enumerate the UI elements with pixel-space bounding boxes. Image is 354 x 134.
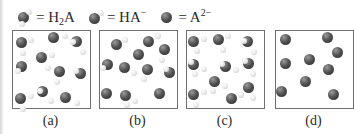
ha-anion-icon — [224, 91, 240, 107]
h2a-molecule-icon — [69, 34, 85, 50]
h2a-molecule-icon — [211, 32, 227, 48]
one-hydrogen-molecule-icon — [85, 7, 105, 27]
h2a-molecule-icon — [241, 56, 257, 72]
ha-anion-icon — [140, 62, 156, 78]
h2a-molecule-icon — [13, 91, 29, 107]
panel-a — [12, 30, 91, 109]
panel-label: (a) — [12, 113, 89, 129]
ha-anion-icon — [100, 57, 116, 73]
legend-item-h2a: = H2A — [14, 7, 75, 27]
two-hydrogen-molecule-icon — [14, 7, 34, 27]
a2-anion-icon — [330, 45, 346, 61]
a2-anion-icon — [274, 84, 290, 100]
panel-label: (d) — [275, 113, 352, 129]
a2-anion-icon — [298, 74, 314, 90]
ha-anion-icon — [109, 37, 125, 53]
h2a-molecule-icon — [14, 35, 30, 51]
a2-anion-icon — [99, 86, 115, 102]
h2a-molecule-icon — [35, 84, 51, 100]
h2a-molecule-icon — [207, 74, 223, 90]
a2-anion-icon — [278, 56, 294, 72]
ha-anion-icon — [52, 64, 68, 80]
legend-item-ha: = HA− — [85, 7, 147, 27]
ha-anion-icon — [162, 65, 178, 81]
ha-anion-icon — [46, 30, 62, 46]
a2-anion-icon — [302, 52, 318, 68]
a2-anion-icon — [152, 86, 168, 102]
h2a-molecule-icon — [118, 88, 134, 104]
ha-anion-icon — [14, 59, 30, 75]
h2a-molecule-icon — [218, 59, 234, 75]
a2-anion-icon — [326, 87, 342, 103]
panel-d — [275, 30, 354, 109]
a2-anion-icon — [321, 62, 337, 78]
h2a-molecule-icon — [186, 34, 202, 50]
ha-anion-icon — [73, 66, 89, 82]
panel-label: (c) — [186, 113, 263, 129]
h2a-molecule-icon — [186, 87, 202, 103]
legend-label-h2a: = H2A — [36, 9, 75, 26]
legend-label-ha: = HA− — [107, 9, 147, 26]
panel-label: (b) — [99, 113, 176, 129]
ha-anion-icon — [58, 90, 74, 106]
species-legend: = H2A = HA− = A2− — [14, 7, 221, 27]
ha-anion-icon — [157, 42, 173, 58]
a2-anion-icon — [320, 30, 336, 46]
h2a-molecule-icon — [186, 57, 202, 73]
h2a-molecule-icon — [34, 50, 50, 66]
legend-label-a2: = A2− — [178, 9, 211, 26]
legend-item-a2: = A2− — [156, 7, 211, 27]
panel-c — [186, 30, 265, 109]
ha-anion-icon — [117, 60, 133, 76]
h2a-molecule-icon — [240, 34, 256, 50]
a2-anion-icon — [131, 47, 147, 63]
panel-b — [99, 30, 178, 109]
a2-anion-icon — [278, 32, 294, 48]
page-edge-shadow — [0, 0, 3, 134]
bare-anion-icon — [156, 7, 176, 27]
